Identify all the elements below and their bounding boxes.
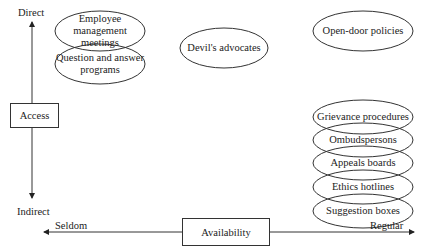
access-axis-box: Access	[10, 103, 59, 128]
question-and-answer-programs-label: Question and answerprograms	[55, 44, 145, 84]
suggestion-boxes-label: Suggestion boxes	[313, 194, 413, 228]
open-door-policies-label: Open-door policies	[313, 11, 413, 51]
availability-axis-box: Availability	[182, 218, 270, 246]
devils-advocates-label: Devil's advocates	[180, 28, 268, 68]
voice-mechanisms-diagram: Direct Indirect Seldom Regular Access Av…	[0, 0, 428, 251]
indirect-label: Indirect	[17, 206, 50, 218]
direct-label: Direct	[18, 7, 44, 19]
seldom-label: Seldom	[55, 220, 87, 232]
